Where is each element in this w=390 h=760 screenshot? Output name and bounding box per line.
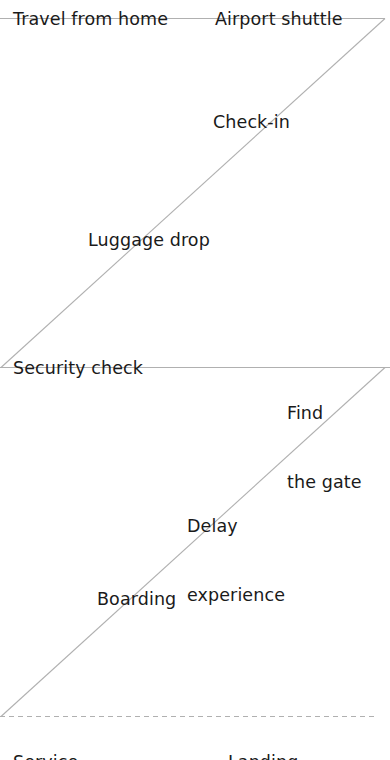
stage-label-find-the-gate: Find the gate <box>287 356 362 540</box>
stage-label-delay-experience-line2: experience <box>187 584 285 607</box>
stage-label-find-the-gate-line2: the gate <box>287 471 362 494</box>
stage-label-check-in: Check-in <box>213 111 290 133</box>
stage-label-delay-experience-line1: Delay <box>187 515 285 538</box>
stage-label-airport-shuttle: Airport shuttle <box>215 8 343 30</box>
stage-label-service-on-board-line1: Service <box>13 751 92 760</box>
stage-label-find-the-gate-line1: Find <box>287 402 362 425</box>
stage-label-boarding: Boarding <box>97 588 176 610</box>
stage-label-travel-from-home: Travel from home <box>13 8 168 30</box>
journey-segment-diagonal1 <box>1 19 385 368</box>
stage-label-landing-at-destination-line1: Landing <box>228 751 351 760</box>
stage-label-luggage-drop: Luggage drop <box>88 229 210 251</box>
stage-label-security-check: Security check <box>13 357 143 379</box>
stage-label-delay-experience: Delay experience <box>187 469 285 653</box>
journey-map-diagram: Travel from home Airport shuttle Check-i… <box>0 0 390 760</box>
stage-label-landing-at-destination: Landing at destination <box>228 705 351 760</box>
stage-label-service-on-board: Service on board <box>13 705 92 760</box>
